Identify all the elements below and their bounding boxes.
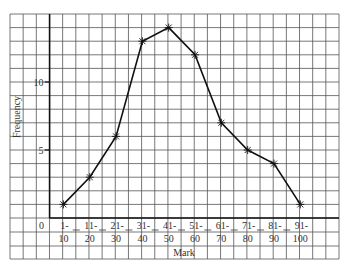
frequency-polygon-chart: 510 1-1011-2021-3031-4041-5051-6061-7071… (0, 0, 349, 271)
svg-text:81-: 81- (268, 220, 281, 231)
svg-text:71-: 71- (242, 220, 255, 231)
x-axis-label: Mark (173, 247, 195, 258)
svg-text:21-: 21- (110, 220, 123, 231)
svg-text:10: 10 (58, 233, 68, 244)
svg-text:40: 40 (137, 233, 147, 244)
data-point (86, 173, 94, 181)
svg-text:61-: 61- (216, 220, 229, 231)
data-point-markers (59, 24, 304, 209)
svg-text:1-: 1- (60, 220, 68, 231)
data-point (138, 37, 146, 45)
svg-text:90: 90 (269, 233, 279, 244)
data-point (165, 24, 173, 32)
frequency-line (63, 28, 300, 205)
svg-text:100: 100 (293, 233, 308, 244)
svg-text:91-: 91- (295, 220, 308, 231)
y-axis-label: Frequency (11, 96, 22, 138)
y-tick-label: 5 (39, 145, 44, 156)
svg-text:20: 20 (85, 233, 95, 244)
data-point (59, 200, 67, 208)
svg-text:60: 60 (190, 233, 200, 244)
data-point (244, 146, 252, 154)
svg-text:11-: 11- (84, 220, 97, 231)
svg-text:80: 80 (243, 233, 253, 244)
svg-text:41-: 41- (163, 220, 176, 231)
data-point (191, 51, 199, 59)
svg-text:31-: 31- (137, 220, 150, 231)
y-tick-label: 10 (34, 77, 44, 88)
origin-label: 0 (39, 220, 44, 231)
svg-text:51-: 51- (189, 220, 202, 231)
svg-text:50: 50 (164, 233, 174, 244)
data-point (112, 132, 120, 140)
data-point (296, 200, 304, 208)
svg-text:70: 70 (216, 233, 226, 244)
svg-text:30: 30 (111, 233, 121, 244)
data-point (270, 160, 278, 168)
data-point (217, 119, 225, 127)
